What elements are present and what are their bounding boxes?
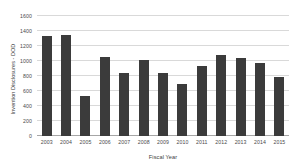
bar-slot [212,16,231,136]
bar-2015[interactable] [274,77,284,136]
bar-slot [270,16,289,136]
bar-slot [231,16,250,136]
x-tick-label: 2011 [192,139,211,145]
bar-2005[interactable] [80,96,90,137]
bar-slot [153,16,172,136]
bar-2013[interactable] [236,58,246,136]
x-tick-label: 2012 [212,139,231,145]
x-tick-label: 2007 [115,139,134,145]
bar-2006[interactable] [100,57,110,136]
bar-2014[interactable] [255,63,265,136]
x-tick-label: 2003 [37,139,56,145]
y-tick-label: 1600 [20,13,32,19]
x-tick-label: 2005 [76,139,95,145]
x-tick-label: 2006 [95,139,114,145]
bar-2008[interactable] [139,60,149,137]
bar-slot [192,16,211,136]
bar-slot [134,16,153,136]
x-tick-label: 2008 [134,139,153,145]
y-tick-label: 800 [23,73,32,79]
y-tick-label: 400 [23,103,32,109]
y-tick-label: 1400 [20,28,32,34]
bars-group [37,16,289,136]
bar-slot [76,16,95,136]
bar-2012[interactable] [216,55,226,136]
x-tick-label: 2014 [250,139,269,145]
bar-2007[interactable] [119,73,129,136]
y-tick-label: 600 [23,88,32,94]
x-tick-label: 2010 [173,139,192,145]
bar-slot [56,16,75,136]
y-tick-label: 1000 [20,58,32,64]
bar-chart: Invention Disclosures - DOD 020040060080… [0,0,297,168]
y-axis-tick-labels: 02004006008001000120014001600 [0,16,34,136]
x-tick-label: 2009 [153,139,172,145]
y-tick-label: 1200 [20,43,32,49]
bar-2003[interactable] [42,36,52,136]
bar-slot [250,16,269,136]
x-axis-tick-labels: 2003200420052006200720082009201020112012… [37,139,289,145]
x-tick-label: 2015 [270,139,289,145]
bar-slot [173,16,192,136]
bar-2011[interactable] [197,66,207,136]
bar-2010[interactable] [177,84,187,137]
plot-area [37,16,289,136]
bar-2004[interactable] [61,35,71,136]
bar-slot [115,16,134,136]
x-tick-label: 2004 [56,139,75,145]
y-tick-label: 200 [23,118,32,124]
y-tick-label: 0 [29,133,32,139]
bar-2009[interactable] [158,73,168,136]
bar-slot [37,16,56,136]
x-tick-label: 2013 [231,139,250,145]
x-axis-title: Fiscal Year [37,154,289,160]
bar-slot [95,16,114,136]
